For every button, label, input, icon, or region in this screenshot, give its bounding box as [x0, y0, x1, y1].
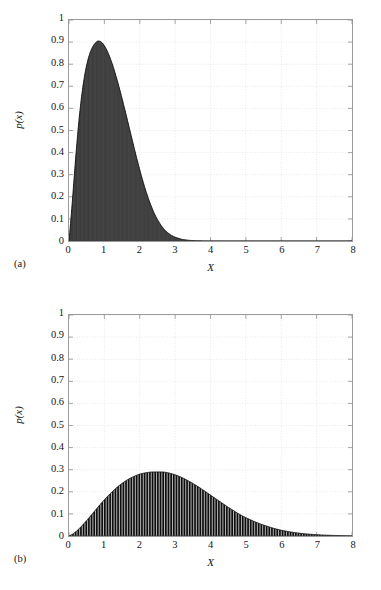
x-ticklabel: 8 [341, 244, 365, 256]
y-axis-ticklabels-a: 1 0.9 0.8 0.7 0.6 0.5 0.4 0.3 0.2 0.1 0 [0, 19, 64, 242]
y-ticklabel: 0.6 [2, 397, 64, 407]
plot-area-b [68, 314, 353, 537]
panel-a: p(x) 1 0.9 0.8 0.7 0.6 0.5 0.4 0.3 0.2 0… [0, 0, 381, 295]
figure-container: p(x) 1 0.9 0.8 0.7 0.6 0.5 0.4 0.3 0.2 0… [0, 0, 381, 590]
y-ticklabel: 1 [2, 308, 64, 318]
x-ticklabel: 2 [127, 244, 151, 256]
x-ticklabel: 8 [341, 539, 365, 551]
y-ticklabel: 0.1 [2, 509, 64, 519]
panel-label-a: (a) [14, 258, 26, 269]
y-ticklabel: 0.7 [2, 375, 64, 385]
y-ticklabel: 0 [2, 531, 64, 541]
x-ticklabel: 3 [163, 539, 187, 551]
x-ticklabel: 7 [305, 539, 329, 551]
panel-b: p(x) 1 0.9 0.8 0.7 0.6 0.5 0.4 0.3 0.2 0… [0, 295, 381, 590]
y-ticklabel: 0.3 [2, 464, 64, 474]
y-ticklabel: 1 [2, 13, 64, 23]
y-ticklabel: 0.8 [2, 58, 64, 68]
y-ticklabel: 0.8 [2, 353, 64, 363]
x-ticklabel: 0 [56, 539, 80, 551]
panel-label-b: (b) [14, 553, 26, 564]
y-ticklabel: 0 [2, 236, 64, 246]
plot-canvas-b [69, 315, 352, 536]
y-ticklabel: 0.2 [2, 486, 64, 496]
y-ticklabel: 0.7 [2, 80, 64, 90]
y-ticklabel: 0.1 [2, 214, 64, 224]
x-ticklabel: 6 [270, 539, 294, 551]
x-ticklabel: 4 [199, 244, 223, 256]
x-ticklabel: 0 [56, 244, 80, 256]
y-ticklabel: 0.3 [2, 169, 64, 179]
x-ticklabel: 1 [92, 539, 116, 551]
y-ticklabel: 0.2 [2, 191, 64, 201]
x-axis-title-a: X [68, 261, 353, 273]
y-ticklabel: 0.9 [2, 330, 64, 340]
plot-area-a [68, 19, 353, 242]
y-ticklabel: 0.4 [2, 147, 64, 157]
x-ticklabel: 1 [92, 244, 116, 256]
x-ticklabel: 4 [199, 539, 223, 551]
x-ticklabel: 5 [234, 244, 258, 256]
x-ticklabel: 5 [234, 539, 258, 551]
y-ticklabel: 0.5 [2, 125, 64, 135]
y-ticklabel: 0.6 [2, 102, 64, 112]
x-axis-title-b: X [68, 556, 353, 568]
y-ticklabel: 0.4 [2, 442, 64, 452]
plot-canvas-a [69, 20, 352, 241]
x-axis-ticklabels-a: 0 1 2 3 4 5 6 7 8 [68, 244, 353, 260]
x-ticklabel: 3 [163, 244, 187, 256]
x-ticklabel: 7 [305, 244, 329, 256]
y-ticklabel: 0.5 [2, 420, 64, 430]
y-axis-ticklabels-b: 1 0.9 0.8 0.7 0.6 0.5 0.4 0.3 0.2 0.1 0 [0, 314, 64, 537]
x-ticklabel: 6 [270, 244, 294, 256]
x-axis-ticklabels-b: 0 1 2 3 4 5 6 7 8 [68, 539, 353, 555]
y-ticklabel: 0.9 [2, 35, 64, 45]
x-ticklabel: 2 [127, 539, 151, 551]
